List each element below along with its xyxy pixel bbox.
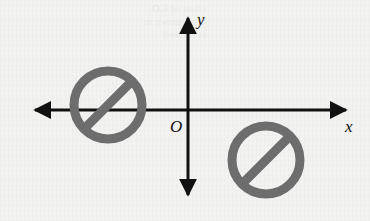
coordinate-plane-diagram: x y O (0, 0, 370, 221)
prohibition-right-slash (242, 136, 290, 184)
figure-canvas: ction of CD. d as shown in is rotated x … (0, 0, 370, 221)
prohibition-symbol-right (232, 126, 300, 194)
y-axis-label: y (195, 10, 205, 29)
prohibition-left-slash (84, 81, 132, 129)
prohibition-symbol-left (74, 71, 142, 139)
x-axis-label: x (344, 117, 353, 136)
origin-label: O (170, 117, 182, 136)
y-axis: y (188, 10, 205, 195)
